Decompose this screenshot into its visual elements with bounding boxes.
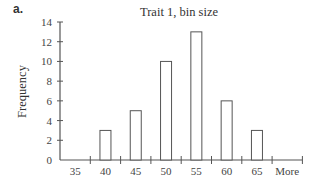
x-tick-label: 50: [161, 165, 173, 177]
bar-40: [100, 130, 111, 160]
bar-50: [161, 61, 172, 160]
x-tick-label: 60: [221, 165, 233, 177]
y-tick-label: 2: [47, 134, 53, 146]
x-tick-label: 65: [251, 165, 263, 177]
histogram-plot: 0246810121435404550556065More: [0, 0, 317, 187]
x-tick-label: 45: [130, 165, 142, 177]
x-tick-label: More: [275, 165, 299, 177]
x-tick-label: 35: [70, 165, 82, 177]
y-tick-label: 14: [41, 16, 53, 28]
bar-65: [251, 130, 262, 160]
bar-55: [191, 32, 202, 160]
y-tick-label: 0: [47, 154, 53, 166]
bar-60: [221, 101, 232, 160]
y-tick-label: 8: [47, 75, 53, 87]
y-tick-label: 10: [41, 55, 53, 67]
x-tick-label: 40: [100, 165, 112, 177]
x-tick-label: 55: [191, 165, 203, 177]
bar-45: [130, 111, 141, 160]
y-tick-label: 12: [41, 36, 52, 48]
y-tick-label: 4: [47, 115, 53, 127]
y-tick-label: 6: [47, 95, 53, 107]
